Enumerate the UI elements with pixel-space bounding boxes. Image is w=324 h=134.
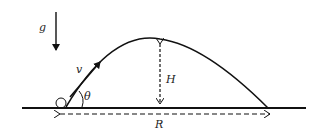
gravity-label: g: [39, 21, 46, 34]
angle-label: θ: [84, 90, 91, 103]
projectile-diagram: g v θ H R: [0, 0, 324, 134]
range-label: R: [154, 118, 163, 131]
velocity-label: v: [76, 63, 83, 76]
height-label: H: [165, 73, 176, 86]
angle-arc: [79, 91, 83, 107]
diagram-canvas: g v θ H R: [0, 0, 324, 134]
projectile-ball: [56, 98, 66, 108]
